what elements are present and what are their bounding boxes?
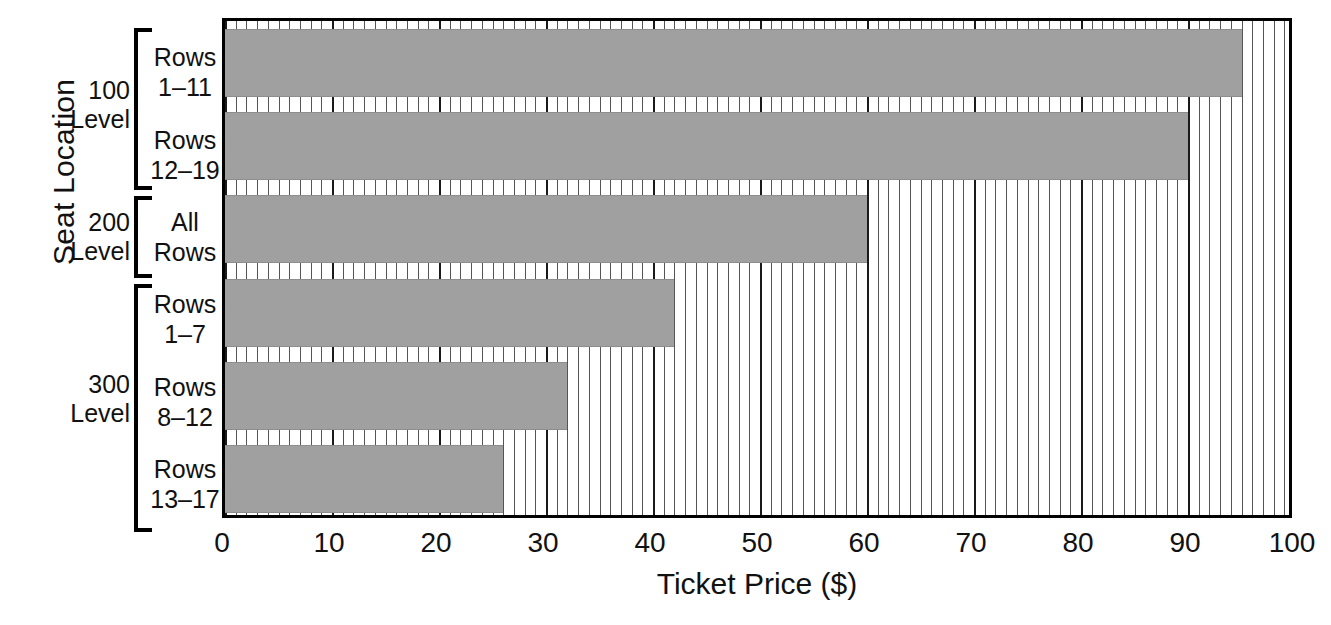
- x-tick-label-20: 20: [396, 526, 476, 560]
- x-axis-tick-labels: 0102030405060708090100: [0, 526, 1331, 566]
- x-tick-label-10: 10: [289, 526, 369, 560]
- x-axis-title: Ticket Price ($): [222, 566, 1292, 602]
- level-label-column: 100 Level 200 Level 300 Level: [62, 18, 130, 518]
- x-tick-label-0: 0: [182, 526, 262, 560]
- category-label-all-rows: All Rows: [150, 207, 220, 267]
- x-tick-label-80: 80: [1038, 526, 1118, 560]
- category-label-rows-13-17: Rows 13–17: [150, 454, 220, 514]
- bracket-300-level: [134, 284, 148, 532]
- category-label-rows-12-19: Rows 12–19: [150, 125, 220, 185]
- level-label-100-line1: 100: [62, 76, 130, 105]
- gridline-minor: [1263, 21, 1264, 515]
- x-tick-label-70: 70: [931, 526, 1011, 560]
- bar-rows-1-11: [225, 29, 1242, 97]
- category-label-rows-8-12-line2: 8–12: [150, 402, 220, 432]
- group-bracket-column: [134, 18, 150, 518]
- gridline-minor: [1252, 21, 1253, 515]
- level-label-300: 300 Level: [62, 370, 130, 428]
- level-label-300-line1: 300: [62, 370, 130, 399]
- gridline-minor: [1274, 21, 1275, 515]
- gridline-minor: [1242, 21, 1243, 515]
- level-label-100-line2: Level: [62, 105, 130, 134]
- bar-rows-8-12: [225, 362, 567, 430]
- category-label-rows-13-17-line2: 13–17: [150, 484, 220, 514]
- x-tick-label-30: 30: [503, 526, 583, 560]
- x-tick-label-50: 50: [717, 526, 797, 560]
- category-label-rows-12-19-line1: Rows: [150, 125, 220, 155]
- level-label-200-line1: 200: [62, 208, 130, 237]
- bar-all-rows: [225, 195, 867, 263]
- category-label-rows-8-12-line1: Rows: [150, 372, 220, 402]
- level-label-100: 100 Level: [62, 76, 130, 134]
- level-label-200: 200 Level: [62, 208, 130, 266]
- category-label-column: Rows 1–11 Rows 12–19 All Rows Rows 1–7 R…: [150, 18, 220, 518]
- category-label-rows-1-11-line2: 1–11: [150, 72, 220, 102]
- bar-rows-1-7: [225, 279, 674, 347]
- category-label-rows-1-11: Rows 1–11: [150, 42, 220, 102]
- category-label-all-rows-line1: All: [150, 207, 220, 237]
- level-label-300-line2: Level: [62, 399, 130, 428]
- plot-area: [222, 18, 1292, 518]
- category-label-all-rows-line2: Rows: [150, 237, 220, 267]
- bar-rows-13-17: [225, 445, 503, 513]
- category-label-rows-13-17-line1: Rows: [150, 454, 220, 484]
- gridline-minor: [1284, 21, 1285, 515]
- category-label-rows-1-7-line1: Rows: [150, 289, 220, 319]
- x-tick-label-100: 100: [1252, 526, 1331, 560]
- bracket-100-level: [134, 28, 148, 190]
- x-tick-label-90: 90: [1145, 526, 1225, 560]
- category-label-rows-1-7: Rows 1–7: [150, 289, 220, 349]
- bar-rows-12-19: [225, 112, 1188, 180]
- x-tick-label-40: 40: [610, 526, 690, 560]
- bracket-200-level: [134, 196, 148, 278]
- x-tick-label-60: 60: [824, 526, 904, 560]
- level-label-200-line2: Level: [62, 237, 130, 266]
- category-label-rows-1-7-line2: 1–7: [150, 319, 220, 349]
- category-label-rows-12-19-line2: 12–19: [150, 155, 220, 185]
- category-label-rows-8-12: Rows 8–12: [150, 372, 220, 432]
- category-label-rows-1-11-line1: Rows: [150, 42, 220, 72]
